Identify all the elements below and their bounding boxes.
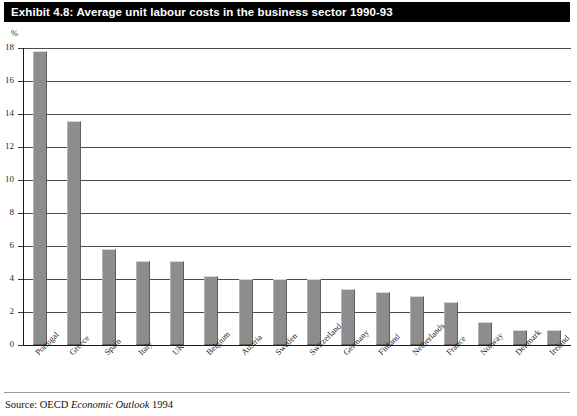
y-axis-tick-label: 0 <box>0 339 14 349</box>
bar-switzerland <box>307 279 321 345</box>
y-axis-tick-label: 10 <box>0 174 14 184</box>
bar-austria <box>239 279 253 345</box>
bar-belgium <box>204 276 218 345</box>
source-year: 1994 <box>149 399 173 410</box>
y-axis-tick-label: 4 <box>0 273 14 283</box>
y-axis-tick-label: 6 <box>0 240 14 250</box>
gridline <box>23 180 571 181</box>
page-title: Exhibit 4.8: Average unit labour costs i… <box>11 6 393 18</box>
plot-area: 024681012141618 PortugalGreeceSpainItaly… <box>23 48 571 345</box>
bar-sweden <box>273 279 287 345</box>
gridline <box>23 213 571 214</box>
bar-portugal <box>33 51 47 345</box>
bar-italy <box>136 261 150 345</box>
exhibit-title-bar: Exhibit 4.8: Average unit labour costs i… <box>4 2 570 22</box>
y-axis-tick-label: 14 <box>0 108 14 118</box>
source-note: Source: OECD Economic Outlook 1994 <box>5 399 173 410</box>
y-axis-tick-label: 8 <box>0 207 14 217</box>
y-axis-unit-label: % <box>11 28 18 38</box>
chart-canvas: % 024681012141618 PortugalGreeceSpainIta… <box>0 22 577 394</box>
footer-divider <box>4 392 570 393</box>
bar-greece <box>67 121 81 345</box>
gridline <box>23 48 571 49</box>
gridline <box>23 246 571 247</box>
y-axis-tick-label: 18 <box>0 42 14 52</box>
y-axis-line <box>23 48 24 345</box>
y-axis-tick <box>18 345 23 346</box>
y-axis-tick-label: 2 <box>0 306 14 316</box>
bar-spain <box>102 249 116 345</box>
source-publication: Economic Outlook <box>71 399 149 410</box>
y-axis-tick-label: 16 <box>0 75 14 85</box>
gridline <box>23 147 571 148</box>
gridline <box>23 114 571 115</box>
y-axis-tick-label: 12 <box>0 141 14 151</box>
source-prefix: Source: OECD <box>5 399 71 410</box>
bar-uk <box>170 261 184 345</box>
gridline <box>23 81 571 82</box>
